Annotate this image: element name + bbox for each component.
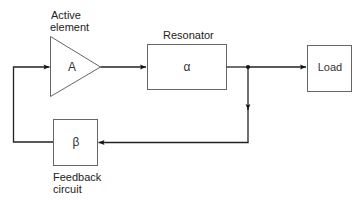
resonator-symbol: α (177, 60, 197, 74)
active-element-label-line2: element (50, 21, 89, 33)
feedback-symbol: β (66, 135, 86, 149)
resonator-label: Resonator (163, 29, 214, 41)
feedback-label-line2: circuit (53, 183, 82, 195)
active-element-symbol: A (62, 60, 82, 74)
junction-dot (246, 65, 250, 69)
feedback-label-line1: Feedback (53, 171, 101, 183)
signal-line-feedback-loop (14, 67, 54, 142)
load-label: Load (308, 61, 352, 73)
active-element-label-line1: Active (51, 9, 81, 21)
